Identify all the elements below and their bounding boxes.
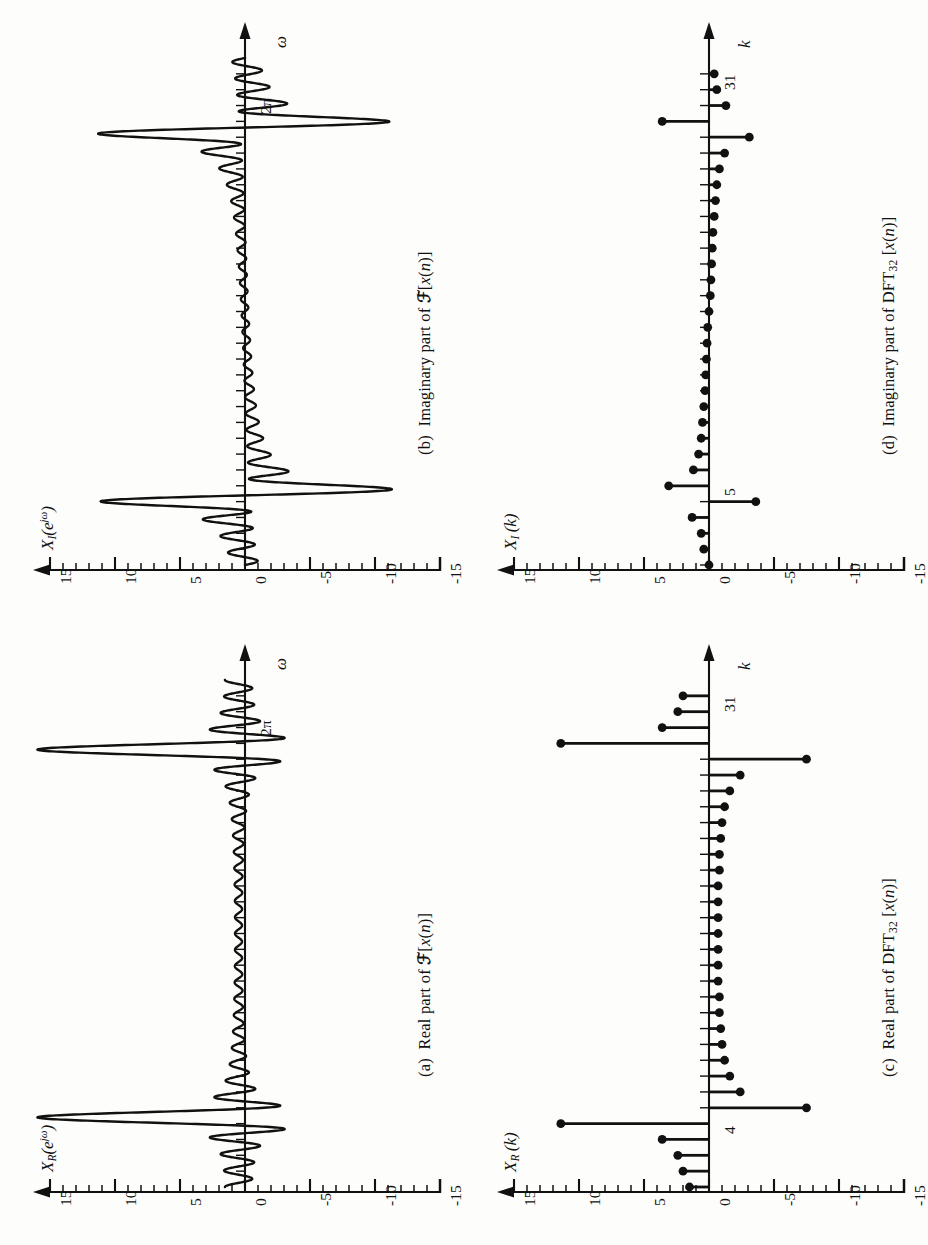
panel-d-freq-tick-label: 5 — [721, 488, 739, 496]
value-tick-label: -5 — [317, 1193, 335, 1206]
value-tick-label: 5 — [187, 1198, 205, 1206]
value-tick-label: -15 — [911, 563, 928, 584]
value-tick-label: 10 — [586, 569, 604, 585]
value-tick-label: -5 — [317, 571, 335, 584]
value-tick-label: 5 — [651, 1198, 669, 1206]
value-tick-label: 0 — [716, 576, 734, 584]
panel-b-freq-tick-label: 2π — [257, 98, 275, 114]
panel-d-plot — [464, 0, 928, 622]
panel-d-freq-axis-label: k — [735, 40, 755, 48]
panel-a-freq-axis-label: ω — [271, 658, 291, 670]
value-tick-label: 15 — [57, 1191, 75, 1207]
value-tick-label: -10 — [846, 1185, 864, 1206]
panel-a-caption: (a) Real part of ℱ[x(n)] — [415, 913, 435, 1077]
value-tick-label: 15 — [521, 569, 539, 585]
value-tick-label: -15 — [447, 1185, 465, 1206]
panel-c-freq-tick-label-31: 31 — [721, 696, 739, 712]
value-tick-label: 10 — [122, 569, 140, 585]
value-tick-label: -10 — [382, 1185, 400, 1206]
value-tick-label: -15 — [911, 1185, 928, 1206]
panel-c-plot — [464, 622, 928, 1245]
value-tick-label: -5 — [781, 1193, 799, 1206]
panel-imaginary-dtft: XI(ejω) 2π ω (b) Imaginary part of ℱ[x(n… — [0, 0, 464, 622]
value-tick-label: 5 — [651, 576, 669, 584]
value-tick-label: 15 — [57, 569, 75, 585]
value-tick-label: 10 — [586, 1191, 604, 1207]
panel-d-caption: (d) Imaginary part of DFT32 [x(n)] — [879, 217, 899, 455]
panel-real-dtft: XR(ejω) 2π ω (a) Real part of ℱ[x(n)] 15… — [0, 622, 464, 1244]
panel-b-freq-axis-label: ω — [271, 36, 291, 48]
panel-c-value-axis-label: XR (k) — [501, 1132, 521, 1172]
value-tick-label: 5 — [187, 576, 205, 584]
value-tick-label: 0 — [252, 1198, 270, 1206]
panel-imaginary-dft: XI (k) 5 31 k (d) Imaginary part of DFT3… — [464, 0, 928, 622]
value-tick-label: 10 — [122, 1191, 140, 1207]
panel-b-plot — [0, 0, 464, 622]
panel-c-caption: (c) Real part of DFT32 [x(n)] — [879, 878, 899, 1077]
panel-a-freq-tick-label: 2π — [257, 720, 275, 736]
panel-a-value-axis-label: XR(ejω) — [37, 1125, 58, 1172]
value-tick-label: 15 — [521, 1191, 539, 1207]
value-tick-label: -10 — [846, 563, 864, 584]
value-tick-label: 0 — [252, 576, 270, 584]
value-tick-label: -5 — [781, 571, 799, 584]
panel-c-freq-tick-label: 4 — [721, 1126, 739, 1134]
panel-a-plot — [0, 622, 464, 1245]
panel-d-freq-tick-label-31: 31 — [721, 74, 739, 90]
panel-b-caption: (b) Imaginary part of ℱ[x(n)] — [415, 251, 435, 455]
panel-c-freq-axis-label: k — [735, 662, 755, 670]
value-tick-label: -15 — [447, 563, 465, 584]
panel-d-value-axis-label: XI (k) — [501, 513, 521, 550]
value-tick-label: -10 — [382, 563, 400, 584]
value-tick-label: 0 — [716, 1198, 734, 1206]
panel-real-dft: XR (k) 4 31 k (c) Real part of DFT32 [x(… — [464, 622, 928, 1244]
panel-b-value-axis-label: XI(ejω) — [37, 506, 58, 550]
